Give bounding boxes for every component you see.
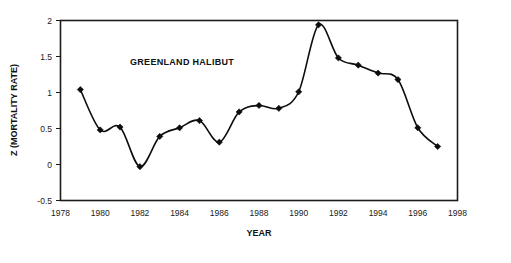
chart-page: 2 1.5 1 0.5 0 -0.5 Z (MORTALITY RATE) 19… <box>0 0 511 263</box>
data-point-marker <box>296 89 302 95</box>
y-tick-label: 2 <box>47 16 52 26</box>
x-axis-title: YEAR <box>246 228 272 238</box>
x-axis-tick-labels: 1978 1980 1982 1984 1986 1988 1990 1992 … <box>51 208 467 218</box>
y-tick-label: 1 <box>47 88 52 98</box>
data-point-marker <box>177 125 183 131</box>
data-point-marker <box>375 70 381 76</box>
x-tick-label: 1988 <box>250 208 269 218</box>
x-tick-label: 1984 <box>170 208 189 218</box>
x-tick-label: 1992 <box>329 208 348 218</box>
y-tick-label: 0.5 <box>40 124 52 134</box>
x-tick-label: 1998 <box>448 208 467 218</box>
data-point-marker <box>276 105 282 111</box>
x-tick-label: 1996 <box>408 208 427 218</box>
y-tick-label: 1.5 <box>40 52 52 62</box>
y-tick-label: 0 <box>47 160 52 170</box>
data-point-marker <box>355 62 361 68</box>
x-tick-label: 1982 <box>130 208 149 218</box>
series-annotation-label: GREENLAND HALIBUT <box>130 57 234 67</box>
y-axis-title: Z (MORTALITY RATE) <box>9 64 19 156</box>
x-tick-label: 1980 <box>91 208 110 218</box>
y-tick-label: -0.5 <box>37 196 52 206</box>
data-point-marker <box>256 102 262 108</box>
plot-frame <box>61 21 458 201</box>
line-chart: 2 1.5 1 0.5 0 -0.5 Z (MORTALITY RATE) 19… <box>0 0 511 263</box>
series-line <box>80 24 437 167</box>
series-markers-group <box>77 22 441 170</box>
x-tick-label: 1978 <box>51 208 70 218</box>
y-axis-tick-labels: 2 1.5 1 0.5 0 -0.5 <box>37 16 52 206</box>
x-tick-label: 1994 <box>369 208 388 218</box>
data-point-marker <box>77 87 83 93</box>
x-tick-label: 1986 <box>210 208 229 218</box>
x-tick-label: 1990 <box>289 208 308 218</box>
